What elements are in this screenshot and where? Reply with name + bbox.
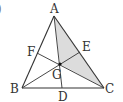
label-f: F (27, 45, 35, 59)
centroid-point (58, 62, 61, 65)
label-e: E (82, 40, 91, 54)
partial-paren-glyph: ) (0, 2, 2, 16)
label-c: C (105, 82, 114, 96)
label-d: D (58, 90, 68, 102)
label-a: A (49, 2, 59, 16)
label-b: B (10, 82, 19, 96)
triangle-diagram: ) A B C D E F G (0, 0, 123, 102)
label-g: G (52, 68, 62, 82)
